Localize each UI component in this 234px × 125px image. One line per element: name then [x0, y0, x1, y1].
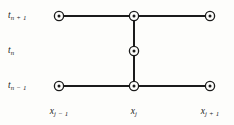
time-axis-label-t-prev: tn − 1 — [8, 80, 27, 90]
node-mid-center — [129, 46, 138, 55]
space-axis-label-x-prev: xj − 1 — [29, 106, 89, 116]
space-axis-label-x-next: xj + 1 — [180, 106, 234, 116]
space-label-sub: j − 1 — [54, 110, 68, 117]
time-axis-label-t-next: tn + 1 — [8, 10, 27, 20]
time-axis-label-t-current: tn — [8, 45, 14, 55]
time-label-sub: n + 1 — [11, 14, 27, 21]
time-label-sub: n − 1 — [11, 84, 27, 91]
time-label-sub: n — [11, 49, 15, 56]
space-label-sub: j + 1 — [205, 110, 219, 117]
node-bottom-left — [54, 81, 63, 90]
stencil-figure: tn + 1 tn tn − 1 xj − 1 xj xj + 1 — [0, 0, 234, 125]
node-top-center — [129, 11, 138, 20]
space-label-sub: j — [135, 110, 137, 117]
node-bottom-center — [129, 81, 138, 90]
node-top-left — [54, 11, 63, 20]
space-axis-label-x-current: xj — [104, 106, 164, 116]
node-bottom-right — [205, 81, 214, 90]
node-top-right — [205, 11, 214, 20]
